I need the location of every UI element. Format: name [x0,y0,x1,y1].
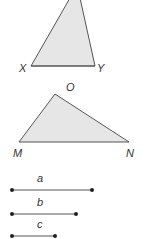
segment-c: c [10,218,57,238]
segment-b: b [10,196,78,216]
triangle-xy [31,0,95,66]
label-x: X [18,62,27,74]
label-b: b [37,196,43,208]
label-n: N [126,147,134,159]
triangle-mon [19,94,129,142]
label-c: c [37,218,43,230]
segment-a: a [10,172,94,192]
label-a: a [37,172,43,184]
label-y: Y [97,62,105,74]
label-m: M [13,147,23,159]
geometry-figure: X Y O M N a b c [0,0,147,239]
label-o: O [66,81,75,93]
